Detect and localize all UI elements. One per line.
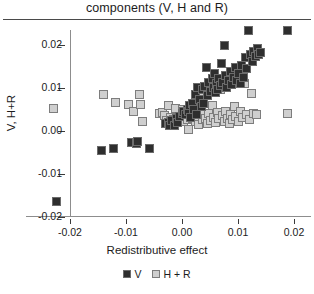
x-tick-mark [238,219,239,224]
data-point-hr [247,89,256,98]
x-tick-label: 0.00 [152,226,212,238]
data-point-hr [184,125,193,134]
x-tick-label: 0.01 [208,226,268,238]
x-tick-label: -0.02 [40,226,100,238]
x-tick-mark [70,219,71,224]
data-point-hr [135,90,144,99]
scatter-chart-figure: components (V, H and R) 0.020.010.00-0.0… [0,0,314,294]
chart-title: components (V, H and R) [0,1,314,15]
y-axis-title: V, H+R [5,68,17,158]
data-point-v [283,26,292,35]
x-tick-label: -0.01 [96,226,156,238]
data-point-hr [49,104,58,113]
data-point-hr [283,109,292,118]
legend-label: H + R [163,268,190,280]
chart-legend: VH + R [0,268,314,280]
x-tick-mark [126,219,127,224]
x-axis-title: Redistributive effect [0,244,314,256]
x-tick-mark [294,219,295,224]
data-point-hr [99,90,108,99]
data-point-v [239,73,248,82]
data-point-hr [136,100,145,109]
data-point-v [109,144,118,153]
legend-entry: V [123,268,141,280]
data-point-hr [111,98,120,107]
data-point-v [52,197,61,206]
data-point-v [217,59,226,68]
data-point-hr [252,110,261,119]
data-point-v [244,26,253,35]
data-point-v [145,144,154,153]
x-tick-label: 0.02 [264,226,314,238]
data-point-v [192,110,201,119]
plot-area [70,30,294,216]
data-point-v [256,48,265,57]
data-point-v [220,41,229,50]
legend-label: V [134,268,141,280]
y-tick-label: -0.02 [8,210,62,222]
data-point-v [97,146,106,155]
x-tick-mark [182,219,183,224]
y-tick-label: -0.01 [8,167,62,179]
legend-swatch-icon [123,270,131,278]
data-point-hr [138,117,147,126]
x-axis-line [26,216,311,217]
legend-swatch-icon [152,270,160,278]
title-divider [3,19,311,20]
data-point-v [133,137,142,146]
legend-entry: H + R [152,268,190,280]
y-tick-label: 0.02 [8,38,62,50]
data-point-v [199,99,208,108]
